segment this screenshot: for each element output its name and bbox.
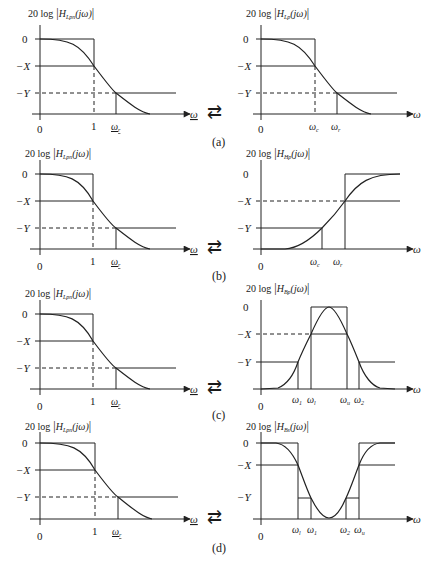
y-tick-minus-y: −Y xyxy=(237,491,252,503)
x-tick-0: 0 xyxy=(37,530,43,542)
x-tick-omega-r: ωr xyxy=(331,121,341,133)
y-tick-minus-x: −X xyxy=(16,464,31,476)
y-tick-0: 0 xyxy=(243,301,249,313)
y-tick-minus-y: −Y xyxy=(237,87,252,99)
y-tick-0: 0 xyxy=(22,308,28,320)
panel-label-b: (b) xyxy=(212,269,226,283)
panel-c-left-plot: 20 log|HLpn(jω)| 0 −X −Y 0 1 ωr ω xyxy=(16,286,198,412)
exchange-arrows-icon: ⇄ xyxy=(207,507,222,527)
y-axis-label: 20 log|HLpn(jω)| xyxy=(25,419,91,433)
y-tick-minus-x: −X xyxy=(16,195,31,207)
y-tick-minus-y: −Y xyxy=(16,491,31,503)
y-tick-minus-x: −X xyxy=(16,335,31,347)
x-tick-0: 0 xyxy=(258,400,264,412)
y-tick-0: 0 xyxy=(22,168,28,180)
y-tick-minus-x: −X xyxy=(237,459,252,471)
y-axis-label: 20 log|HLp(jω)| xyxy=(246,6,309,20)
panel-c-right-plot: 20 log|HBp(jω)| 0 −X −Y 0 ω1 ωl ωu ω2 ω xyxy=(237,281,421,412)
response-curve xyxy=(40,39,150,114)
y-tick-0: 0 xyxy=(243,168,249,180)
panel-b-left-plot: 20 log|HLpn(jω)| 0 −X −Y 0 1 ωr ω xyxy=(16,146,198,272)
filter-transform-figure: 20 log|HLpn(jω)| 0 −X −Y 0 1 ωr ω ⇄ 20 l… xyxy=(0,0,433,566)
x-tick-omega-r: ωr xyxy=(111,396,121,408)
panel-d-right-plot: 20 log|HBs(jω)| 0 −X −Y 0 ωl ω1 ω2 ωu ω xyxy=(237,419,421,542)
x-tick-0: 0 xyxy=(37,400,43,412)
y-axis-label: 20 log|HLpn(jω)| xyxy=(25,286,91,300)
panel-b: 20 log|HLpn(jω)| 0 −X −Y 0 1 ωr ω ⇄ 20 l… xyxy=(16,146,421,283)
y-axis-label: 20 log|HHp(jω)| xyxy=(246,146,310,160)
x-tick-1: 1 xyxy=(92,525,98,537)
x-tick-omega-r: ωr xyxy=(111,256,121,268)
y-axis-label: 20 log|HLpn(jω)| xyxy=(28,6,94,20)
x-axis-label: ω xyxy=(413,108,421,120)
panel-a-right-plot: 20 log|HLp(jω)| 0 −X −Y 0 ωc ωr ω xyxy=(237,6,421,135)
y-tick-0: 0 xyxy=(22,437,28,449)
x-tick-omega-c: ωc xyxy=(309,121,319,133)
y-tick-0: 0 xyxy=(22,33,28,45)
exchange-arrows-icon: ⇄ xyxy=(207,237,222,257)
exchange-arrows-icon: ⇄ xyxy=(207,377,222,397)
x-tick-0: 0 xyxy=(37,123,43,135)
panel-label-a: (a) xyxy=(212,135,225,149)
panel-label-c: (c) xyxy=(212,408,225,422)
x-axis-label: ω xyxy=(190,513,198,525)
y-tick-minus-y: −Y xyxy=(237,356,252,368)
y-tick-minus-y: −Y xyxy=(237,222,252,234)
y-axis-label: 20 log|HBp(jω)| xyxy=(246,281,310,295)
x-axis-label: ω xyxy=(190,243,198,255)
y-tick-minus-y: −Y xyxy=(16,87,31,99)
y-tick-minus-x: −X xyxy=(237,60,252,72)
x-tick-0: 0 xyxy=(258,260,264,272)
panel-c: 20 log|HLpn(jω)| 0 −X −Y 0 1 ωr ω ⇄ 20 l xyxy=(16,281,421,422)
panel-a: 20 log|HLpn(jω)| 0 −X −Y 0 1 ωr ω ⇄ 20 l… xyxy=(16,6,421,149)
y-tick-minus-y: −Y xyxy=(16,222,31,234)
panel-a-left-plot: 20 log|HLpn(jω)| 0 −X −Y 0 1 ωr ω xyxy=(16,6,198,135)
y-tick-minus-x: −X xyxy=(237,328,252,340)
x-tick-0: 0 xyxy=(258,530,264,542)
exchange-arrows-icon: ⇄ xyxy=(207,102,222,122)
y-tick-minus-x: −X xyxy=(16,60,31,72)
x-tick-1: 1 xyxy=(90,395,96,407)
x-axis-label: ω xyxy=(190,108,198,120)
y-tick-minus-y: −Y xyxy=(16,362,31,374)
x-axis-label: ω xyxy=(190,383,198,395)
x-tick-omega-u: ωu xyxy=(354,523,365,536)
x-tick-omega-l: ωl xyxy=(292,524,301,536)
x-tick-omega-r: ωr xyxy=(111,121,121,133)
x-tick-omega-r: ωr xyxy=(112,526,122,538)
panel-d-left-plot: 20 log|HLpn(jω)| 0 −X −Y 0 1 ωr ω xyxy=(16,419,198,542)
y-tick-minus-x: −X xyxy=(237,195,252,207)
panel-d: 20 log|HLpn(jω)| 0 −X −Y 0 1 ωr ω ⇄ xyxy=(16,419,421,555)
panel-label-d: (d) xyxy=(212,541,226,555)
x-tick-omega-l: ωl xyxy=(307,394,316,406)
x-tick-omega-1: ω1 xyxy=(307,524,317,536)
x-axis-label: ω xyxy=(413,513,421,525)
y-axis-label: 20 log|HLpn(jω)| xyxy=(25,146,91,160)
x-tick-0: 0 xyxy=(258,123,264,135)
y-tick-0: 0 xyxy=(243,437,249,449)
x-axis-label: ω xyxy=(413,243,421,255)
x-tick-1: 1 xyxy=(91,120,97,132)
y-tick-0: 0 xyxy=(243,33,249,45)
x-tick-0: 0 xyxy=(37,260,43,272)
y-axis-label: 20 log|HBs(jω)| xyxy=(246,419,309,433)
x-axis-label: ω xyxy=(413,383,421,395)
x-tick-omega-2: ω2 xyxy=(354,394,364,406)
x-tick-omega-c: ωc xyxy=(310,256,320,268)
x-tick-1: 1 xyxy=(90,255,96,267)
panel-b-right-plot: 20 log|HHp(jω)| 0 −X −Y 0 ωc ωr ω xyxy=(237,146,421,272)
x-tick-omega-1: ω1 xyxy=(292,394,302,406)
x-tick-omega-2: ω2 xyxy=(340,524,350,536)
x-tick-omega-r: ωr xyxy=(333,256,343,268)
x-tick-omega-u: ωu xyxy=(340,394,350,406)
